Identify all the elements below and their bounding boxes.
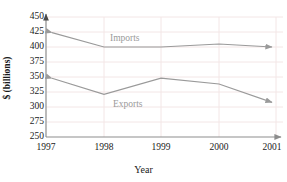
y-tick-label: 250 — [16, 132, 44, 142]
x-tick-label: 2001 — [252, 143, 287, 153]
series-label-exports: Exports — [113, 99, 143, 109]
y-tick-label: 450 — [16, 12, 44, 22]
x-axis-title: Year — [0, 164, 287, 175]
x-tick-label: 1997 — [26, 143, 66, 153]
series-line-imports — [52, 33, 272, 47]
line-chart: $ (billions) 450 425 400 375 350 325 300… — [0, 0, 287, 182]
y-axis-title-wrap: $ (billions) — [0, 0, 15, 155]
y-axis-title: $ (billions) — [2, 56, 12, 99]
y-tick-label: 350 — [16, 72, 44, 82]
x-tick-label: 1998 — [84, 143, 124, 153]
y-tick-label: 425 — [16, 27, 44, 37]
y-tick-label: 300 — [16, 102, 44, 112]
y-tick-label: 400 — [16, 42, 44, 52]
x-tick-label: 1999 — [141, 143, 181, 153]
y-tick-label: 375 — [16, 57, 44, 67]
x-tick-label: 2000 — [199, 143, 239, 153]
horizontal-gridlines — [46, 17, 283, 122]
y-tick-label: 275 — [16, 117, 44, 127]
series-label-imports: Imports — [110, 33, 140, 43]
y-tick-label: 325 — [16, 87, 44, 97]
series-line-exports — [52, 78, 272, 102]
